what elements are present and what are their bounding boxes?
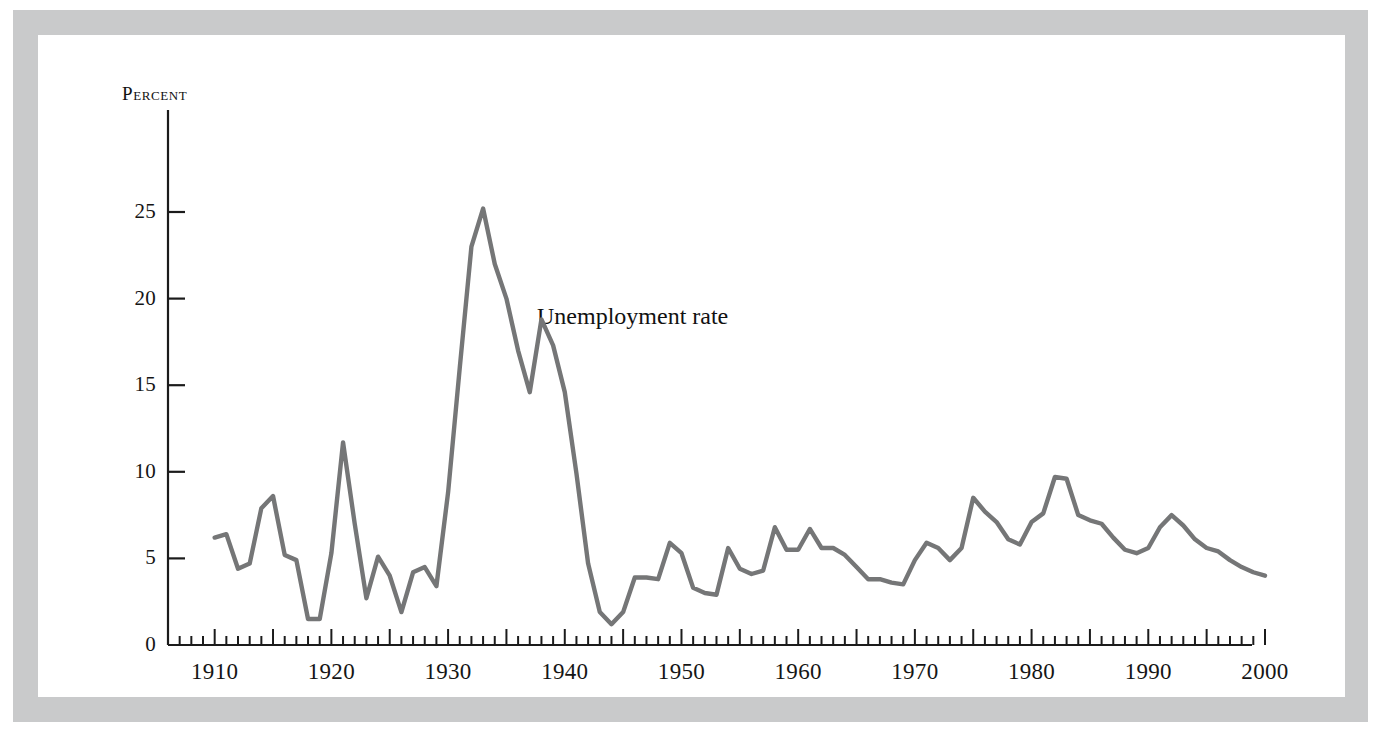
y-axis-tick-label: 10 xyxy=(110,459,156,484)
x-axis-tick-label: 1930 xyxy=(403,659,493,685)
x-axis-tick-label: 1990 xyxy=(1103,659,1193,685)
x-axis-tick-label: 1940 xyxy=(520,659,610,685)
line-chart-plot xyxy=(0,0,1377,738)
y-axis-tick-label: 20 xyxy=(110,286,156,311)
x-axis-tick-label: 1910 xyxy=(170,659,260,685)
x-axis-tick-label: 2000 xyxy=(1220,659,1310,685)
series-line-unemployment-rate xyxy=(215,209,1265,625)
x-axis-tick-label: 1950 xyxy=(636,659,726,685)
y-axis-ticks xyxy=(168,212,185,558)
x-axis-tick-label: 1960 xyxy=(753,659,843,685)
y-axis-tick-label: 25 xyxy=(110,199,156,224)
y-axis-tick-label: 15 xyxy=(110,372,156,397)
x-axis-tick-label: 1980 xyxy=(987,659,1077,685)
x-axis-ticks xyxy=(180,629,1265,645)
y-axis-tick-label: 0 xyxy=(110,632,156,657)
data-series-group xyxy=(215,209,1265,625)
y-axis-tick-label: 5 xyxy=(110,545,156,570)
x-axis-tick-label: 1970 xyxy=(870,659,960,685)
figure-screenshot: Percent Unemployment rate 0510152025 191… xyxy=(0,0,1377,738)
x-axis-tick-label: 1920 xyxy=(286,659,376,685)
